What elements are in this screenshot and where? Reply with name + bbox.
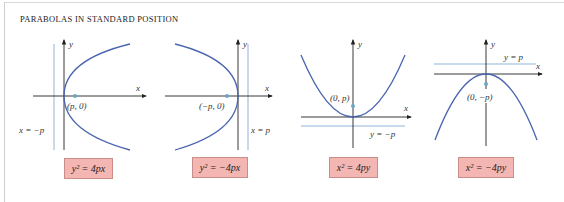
- panel-1: y x (p, 0) x = −p: [18, 39, 146, 150]
- focus-label: (0, −p): [467, 92, 493, 102]
- panel-3: y x (0, p) y = −p: [301, 39, 411, 148]
- equation-box: y² = 4px: [64, 158, 113, 179]
- directrix-label: x = p: [250, 125, 271, 135]
- y-axis-label: y: [242, 39, 247, 49]
- equation-box: x² = −4py: [458, 157, 514, 178]
- equation-text: y² = 4px: [72, 163, 106, 174]
- directrix-label: y = −p: [369, 129, 396, 139]
- equation-box: x² = 4py: [329, 157, 378, 178]
- equation-text: y² = −4px: [200, 162, 240, 173]
- x-axis-label: x: [135, 83, 140, 93]
- equation-text: x² = 4py: [337, 162, 371, 173]
- directrix-label: y = p: [503, 52, 524, 62]
- y-axis-label: y: [68, 39, 73, 49]
- focus-label: (0, p): [330, 93, 350, 103]
- y-axis-label: y: [490, 39, 495, 49]
- focus-point: [73, 94, 77, 98]
- focus-label: (−p, 0): [199, 101, 225, 111]
- focus-label: (p, 0): [67, 101, 87, 111]
- x-axis-label: x: [403, 103, 408, 113]
- x-axis-label: x: [535, 61, 540, 71]
- equation-text: x² = −4py: [466, 162, 506, 173]
- focus-point: [484, 82, 488, 86]
- y-axis-label: y: [357, 39, 362, 49]
- equation-box: y² = −4px: [192, 157, 248, 178]
- focus-point: [225, 94, 229, 98]
- panel-2: y x (−p, 0) x = p: [165, 39, 272, 150]
- panel-4: y x (0, −p) y = p: [434, 39, 542, 146]
- x-axis-label: x: [264, 83, 269, 93]
- directrix-label: x = −p: [18, 125, 45, 135]
- focus-point: [351, 104, 355, 108]
